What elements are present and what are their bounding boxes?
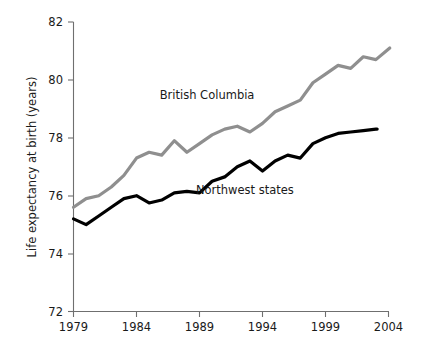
y-tick-label-80: 80 bbox=[48, 73, 63, 87]
x-tick-label-1979: 1979 bbox=[59, 320, 88, 334]
x-tick-label-1984: 1984 bbox=[122, 320, 151, 334]
x-axis-ticks: 1979 1984 1989 1994 1999 2004 bbox=[59, 312, 403, 335]
y-tick-label-72: 72 bbox=[48, 305, 63, 319]
line-chart: Life expectancy at birth (years) 82 80 7… bbox=[0, 0, 431, 359]
series-line-northwest-states bbox=[74, 129, 378, 225]
x-tick-label-1989: 1989 bbox=[185, 320, 214, 334]
y-axis-title: Life expectancy at birth (years) bbox=[25, 77, 39, 258]
x-tick-label-1994: 1994 bbox=[248, 320, 277, 334]
northwest-states-label: Northwest states bbox=[196, 183, 294, 197]
chart-figure: Life expectancy at birth (years) 82 80 7… bbox=[0, 0, 431, 359]
x-tick-label-1999: 1999 bbox=[311, 320, 340, 334]
british-columbia-label: British Columbia bbox=[160, 88, 255, 102]
y-tick-label-76: 76 bbox=[48, 189, 63, 203]
x-tick-label-2004: 2004 bbox=[374, 320, 403, 334]
y-tick-label-74: 74 bbox=[48, 247, 63, 261]
y-tick-label-82: 82 bbox=[48, 15, 63, 29]
y-axis-ticks: 82 80 78 76 74 72 bbox=[48, 15, 73, 319]
y-tick-label-78: 78 bbox=[48, 131, 63, 145]
